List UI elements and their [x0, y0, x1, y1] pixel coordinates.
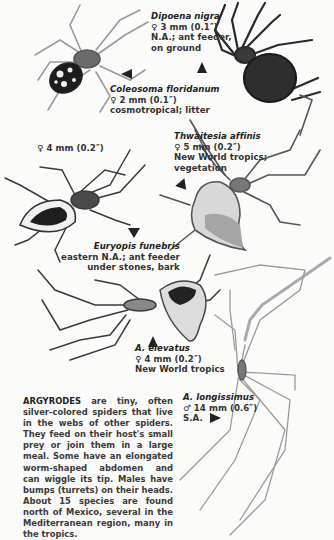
species-habitat: vegetation	[174, 163, 267, 174]
size-value: 3 mm (0.1″)	[160, 22, 217, 32]
size-value: 2 mm (0.1″)	[119, 95, 176, 105]
size-value: 14 mm (0.6″)	[194, 403, 257, 413]
female-symbol-icon: ♀	[110, 95, 116, 105]
genus-description: ARGYRODES are tiny, often silver-colored…	[23, 396, 173, 540]
species-name: A. longissimus	[183, 392, 257, 403]
description-text: are tiny, often silver-colored spiders t…	[23, 396, 173, 539]
species-habitat: under stones, bark	[61, 262, 180, 273]
species-name: A. elevatus	[135, 343, 225, 354]
species-range: cosmotropical; litter	[110, 105, 220, 116]
species-label-euryopis-funebris: Euryopis funebris eastern N.A.; ant feed…	[61, 241, 180, 273]
species-name: Thwaitesia affinis	[174, 131, 267, 142]
species-label-a-elevatus: A. elevatus ♀ 4 mm (0.2″) New World trop…	[135, 343, 225, 375]
female-symbol-icon: ♀	[151, 22, 157, 32]
species-habitat: on ground	[151, 43, 231, 54]
species-name: Coleosoma floridanum	[110, 84, 220, 95]
species-name: Dipoena nigra	[151, 11, 231, 22]
female-symbol-icon: ♀	[174, 142, 180, 152]
size-value: 4 mm (0.2″)	[144, 354, 201, 364]
size-value: 5 mm (0.2″)	[183, 142, 240, 152]
species-label-coleosoma-floridanum: Coleosoma floridanum ♀ 2 mm (0.1″) cosmo…	[110, 84, 220, 116]
species-range: N.A.; ant feeder,	[151, 32, 231, 43]
female-symbol-icon: ♀	[37, 143, 43, 153]
species-size: ♀ 3 mm (0.1″)	[151, 22, 231, 33]
pointer-arrow-icon	[210, 413, 221, 423]
species-label-dipoena-nigra: Dipoena nigra ♀ 3 mm (0.1″) N.A.; ant fe…	[151, 11, 231, 53]
species-size: ♀ 5 mm (0.2″)	[174, 142, 267, 153]
size-value: 4 mm (0.2″)	[46, 143, 103, 153]
species-range: New World tropics;	[174, 152, 267, 163]
species-range: eastern N.A.; ant feeder	[61, 252, 180, 263]
species-label-thwaitesia-affinis: Thwaitesia affinis ♀ 5 mm (0.2″) New Wor…	[174, 131, 267, 173]
species-size: ♀ 4 mm (0.2″)	[37, 143, 104, 154]
pointer-arrow-icon	[128, 228, 140, 238]
female-symbol-icon: ♀	[135, 354, 141, 364]
male-symbol-icon: ♂	[183, 403, 191, 413]
species-size: ♀ 4 mm (0.2″)	[135, 354, 225, 365]
species-label-euryopis-size: ♀ 4 mm (0.2″)	[37, 143, 104, 154]
pointer-arrow-icon	[197, 62, 207, 73]
species-size: ♀ 2 mm (0.1″)	[110, 95, 220, 106]
species-range: New World tropics	[135, 364, 225, 375]
genus-name: ARGYRODES	[23, 396, 81, 406]
species-size: ♂ 14 mm (0.6″)	[183, 403, 257, 414]
species-name: Euryopis funebris	[61, 241, 180, 252]
pointer-arrow-icon	[121, 69, 132, 79]
